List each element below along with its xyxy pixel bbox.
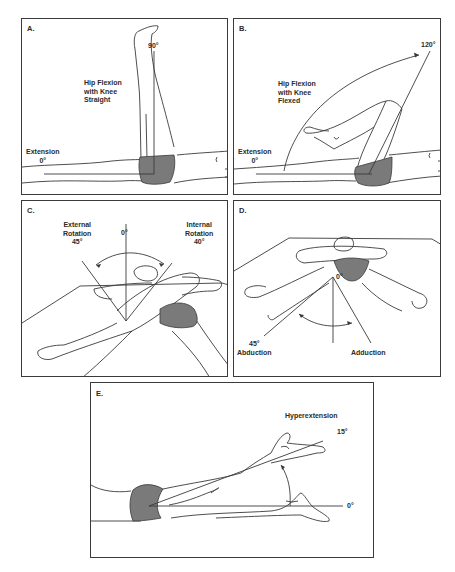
end-angle-label: 120° — [421, 41, 435, 50]
internal-rotation-label: Internal Rotation 40° — [185, 221, 213, 247]
neutral-angle-label: 0° — [336, 273, 343, 282]
hyperextension-illustration — [91, 383, 374, 558]
motion-title: Hip Flexion with Knee Flexed — [278, 80, 316, 106]
motion-title: Hip Flexion with Knee Straight — [84, 79, 122, 105]
end-angle-label: 90° — [148, 42, 159, 51]
panel-label: B. — [239, 25, 247, 34]
neutral-angle-label: 0° — [121, 229, 128, 238]
external-rotation-label: External Rotation 45° — [63, 221, 91, 247]
panel-label: D. — [239, 207, 247, 216]
shorts-shading — [139, 155, 175, 184]
panel-d-abduction-adduction: D. 0° 45° Abduction Adduction — [233, 200, 441, 377]
abduction-angle-label: 45° — [249, 340, 260, 349]
panel-a-hip-flexion-knee-straight: A. Hip Flexion with Knee Straight Extens… — [21, 18, 228, 195]
end-angle-label: 15° — [337, 428, 348, 437]
panel-label: A. — [27, 25, 35, 34]
start-angle-label: 0° — [347, 502, 354, 511]
shorts-shading — [160, 303, 197, 328]
panel-label: C. — [27, 207, 35, 216]
hip-flexion-knee-straight-illustration — [22, 19, 228, 195]
panel-c-hip-rotation: C. External Rotation 45° 0° Internal Rot… — [21, 200, 228, 377]
panel-e-hyperextension: E. Hyperextension 15° 0° — [90, 382, 374, 558]
start-position-label: Extension 0° — [238, 148, 271, 165]
hip-flexion-knee-flexed-illustration — [234, 19, 441, 195]
motion-title: Hyperextension — [285, 412, 338, 421]
adduction-label: Adduction — [351, 349, 386, 358]
arrowhead-icon — [414, 53, 419, 58]
abduction-label: Abduction — [237, 349, 272, 358]
shorts-shading — [355, 157, 392, 186]
panel-label: E. — [96, 390, 103, 399]
panel-b-hip-flexion-knee-flexed: B. Hip Flexion with Knee Flexed Extensio… — [233, 18, 441, 195]
start-position-label: Extension 0° — [26, 148, 59, 165]
